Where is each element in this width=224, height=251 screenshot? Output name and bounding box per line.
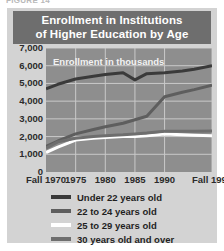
y-axis-tick-label: 1,000 <box>19 149 43 159</box>
legend-item-label: 25 to 29 years old <box>77 220 157 231</box>
x-axis-tick-label: 1990 <box>154 174 175 185</box>
legend-item-label: 22 to 24 years old <box>77 206 157 217</box>
legend-item: 25 to 29 years old <box>51 218 211 232</box>
x-axis-tick-label: Fall 1998 <box>192 174 224 185</box>
x-axis-tick-label: 1975 <box>65 174 86 185</box>
y-axis-tick-label: 6,000 <box>19 61 43 71</box>
clipped-figure-caption: FIGURE 14 <box>0 0 224 7</box>
figure-root: FIGURE 14 Enrollment in Institutions of … <box>0 0 224 251</box>
legend-item-label: Under 22 years old <box>77 192 162 203</box>
plot-annotation: Enrollment in thousands <box>53 56 164 67</box>
y-axis: 01,0002,0003,0004,0005,0006,0007,000 <box>7 48 45 172</box>
y-axis-tick-label: 2,000 <box>19 132 43 142</box>
plot-block: 01,0002,0003,0004,0005,0006,0007,000 Enr… <box>7 48 217 188</box>
legend-item-label: 30 years old and over <box>77 234 174 245</box>
x-axis-tick-label: Fall 1970 <box>26 174 66 185</box>
y-axis-tick-label: 7,000 <box>19 43 43 53</box>
chart-card: Enrollment in Institutions of Higher Edu… <box>7 8 217 243</box>
chart-title: Enrollment in Institutions of Higher Edu… <box>36 14 189 41</box>
plot-area: Enrollment in thousands <box>46 48 212 172</box>
legend-item: 30 years old and over <box>51 232 211 246</box>
legend-item: 22 to 24 years old <box>51 204 211 218</box>
legend-swatch-icon <box>51 195 71 199</box>
y-axis-tick-label: 5,000 <box>19 78 43 88</box>
chart-title-banner: Enrollment in Institutions of Higher Edu… <box>13 11 211 44</box>
legend-item: Under 22 years old <box>51 190 211 204</box>
x-axis-tick-label: 1985 <box>124 174 145 185</box>
clipped-caption-text: FIGURE 14 <box>6 0 224 5</box>
x-axis-tick-label: 1980 <box>95 174 116 185</box>
legend-swatch-icon <box>51 237 71 241</box>
legend-swatch-icon <box>51 209 71 213</box>
chart-legend: Under 22 years old22 to 24 years old25 t… <box>51 190 211 246</box>
x-axis: Fall 19701975198019851990Fall 1998 <box>7 174 217 188</box>
series-line <box>46 66 212 89</box>
legend-swatch-icon <box>51 223 71 227</box>
y-axis-tick-label: 3,000 <box>19 114 43 124</box>
y-axis-tick-label: 4,000 <box>19 96 43 106</box>
